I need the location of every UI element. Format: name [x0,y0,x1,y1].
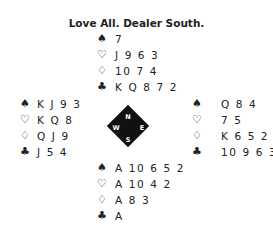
north-hearts: J 9 6 3 [115,47,159,63]
heart-icon: ♡ [96,176,108,192]
south-clubs: A [115,208,124,224]
spade-icon: ♠ [96,160,108,176]
diamond-icon: ♢ [19,128,31,144]
compass-west: W [111,124,121,132]
north-clubs: K Q 8 7 2 [115,79,178,95]
west-hearts: K Q 8 [37,112,74,128]
heart-icon: ♡ [96,47,108,63]
south-spades: A 10 6 5 2 [115,160,185,176]
spade-icon: ♠ [96,31,108,47]
heart-icon: ♡ [19,112,31,128]
spade-icon: ♠ [191,96,203,112]
compass-north: N [123,113,133,121]
west-spades: K J 9 3 [37,96,82,112]
club-icon: ♣ [96,208,108,224]
east-clubs: 10 9 6 3 [221,144,273,160]
north-spades: 7 [115,31,123,47]
east-hearts: 7 5 [221,112,243,128]
west-clubs: J 5 4 [37,144,68,160]
east-diamonds: K 6 5 2 [221,128,269,144]
club-icon: ♣ [191,144,203,160]
south-diamonds: A 8 3 [115,192,150,208]
heart-icon: ♡ [191,112,203,128]
north-diamonds: 10 7 4 [115,63,158,79]
spade-icon: ♠ [19,96,31,112]
diamond-icon: ♢ [191,128,203,144]
club-icon: ♣ [19,144,31,160]
west-diamonds: Q J 9 [37,128,70,144]
compass-east: E [137,124,147,132]
diamond-icon: ♢ [96,63,108,79]
compass-south: S [123,136,133,144]
diamond-icon: ♢ [96,192,108,208]
east-spades: Q 8 4 [221,96,257,112]
south-hearts: A 10 4 2 [115,176,172,192]
deal-title: Love All. Dealer South. [0,17,273,29]
club-icon: ♣ [96,79,108,95]
